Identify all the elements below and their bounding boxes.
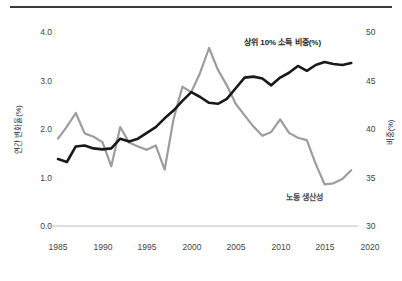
line-labor-productivity — [58, 48, 351, 184]
line-top10-income-share — [58, 62, 351, 162]
plot-area — [0, 0, 402, 281]
chart-figure: 연간 변화율(%) 비중(%) 4.0 3.0 2.0 1.0 0.0 50 4… — [0, 0, 402, 281]
